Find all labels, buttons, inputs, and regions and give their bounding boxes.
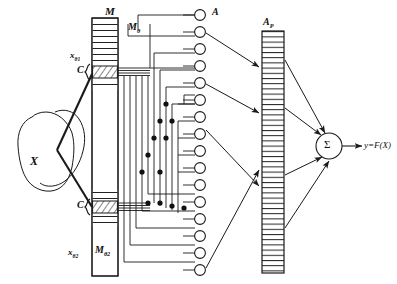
- label-m-theta2: Mθ2: [95, 245, 110, 257]
- association-unit: [195, 129, 206, 140]
- association-unit: [195, 197, 206, 208]
- association-unit: [195, 44, 206, 55]
- label-m-theta-bundle: Mθ: [128, 22, 140, 34]
- association-unit: [195, 214, 206, 225]
- coupler-output-wires: [118, 68, 150, 211]
- association-feed-lines: [150, 68, 195, 213]
- stimulus-projection-lines: [57, 74, 92, 207]
- label-stimulus-X: X: [30, 155, 38, 167]
- association-unit: [195, 180, 206, 191]
- association-unit: [195, 27, 206, 38]
- association-unit: [195, 95, 206, 106]
- label-coupler-top-C: C: [77, 65, 84, 75]
- label-x-theta2: xθ2: [68, 248, 78, 259]
- memory-column: [92, 18, 118, 276]
- association-unit: [195, 78, 206, 89]
- projection-bar: [262, 31, 284, 273]
- association-unit: [195, 265, 206, 276]
- label-x-theta1: xθ1: [70, 51, 80, 62]
- label-projection-bar-AP: AP: [263, 17, 273, 29]
- figure-canvas: M Mθ xθ1 C C xθ2 Mθ2 X A AP Σ y=F(X): [0, 0, 397, 284]
- association-unit: [195, 163, 206, 174]
- schematic-diagram: [0, 0, 397, 284]
- label-memory-column-M: M: [105, 6, 115, 17]
- label-sigma: Σ: [324, 139, 330, 150]
- label-association-units-A: A: [212, 7, 219, 17]
- association-unit: [195, 112, 206, 123]
- label-coupler-bottom-C: C: [77, 200, 84, 210]
- association-unit: [195, 248, 206, 259]
- association-unit: [195, 61, 206, 72]
- m-theta-bundle: [124, 15, 195, 262]
- association-units: [195, 10, 206, 276]
- association-unit: [195, 10, 206, 21]
- a-to-ap-arrows: [206, 33, 259, 268]
- association-unit: [195, 146, 206, 157]
- association-unit: [195, 231, 206, 242]
- label-output: y=F(X): [364, 141, 391, 150]
